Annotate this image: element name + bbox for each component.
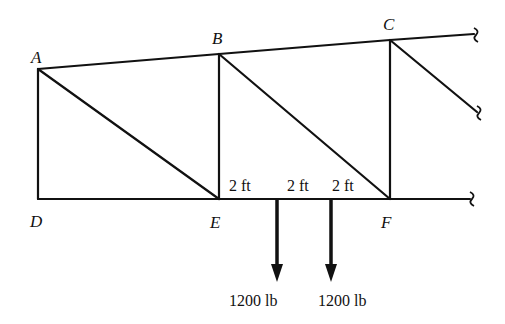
- node-label-c: C: [383, 15, 395, 34]
- node-label-a: A: [30, 48, 42, 67]
- node-label-b: B: [212, 29, 223, 48]
- break-mark-top: [474, 28, 478, 42]
- dimension-label-2: 2 ft: [287, 177, 309, 194]
- member-c-diagonal-continuation: [390, 40, 477, 112]
- node-label-e: E: [209, 213, 221, 232]
- load-label-1: 1200 lb: [229, 292, 277, 309]
- member-c-continuation: [390, 34, 474, 40]
- load-arrow-2-head-icon: [325, 264, 337, 282]
- node-label-f: F: [380, 213, 392, 232]
- dimension-label-1: 2 ft: [229, 177, 251, 194]
- node-label-d: D: [29, 212, 43, 231]
- dimension-label-3: 2 ft: [332, 177, 354, 194]
- truss-diagram: A B C D E F 2 ft 2 ft 2 ft 1200 lb 1200 …: [0, 0, 505, 324]
- load-arrow-1-head-icon: [271, 264, 283, 282]
- load-label-2: 1200 lb: [318, 292, 366, 309]
- member-ab: [38, 54, 219, 69]
- member-bc: [219, 40, 390, 54]
- member-ae: [38, 69, 219, 199]
- break-mark-diagonal: [477, 106, 481, 120]
